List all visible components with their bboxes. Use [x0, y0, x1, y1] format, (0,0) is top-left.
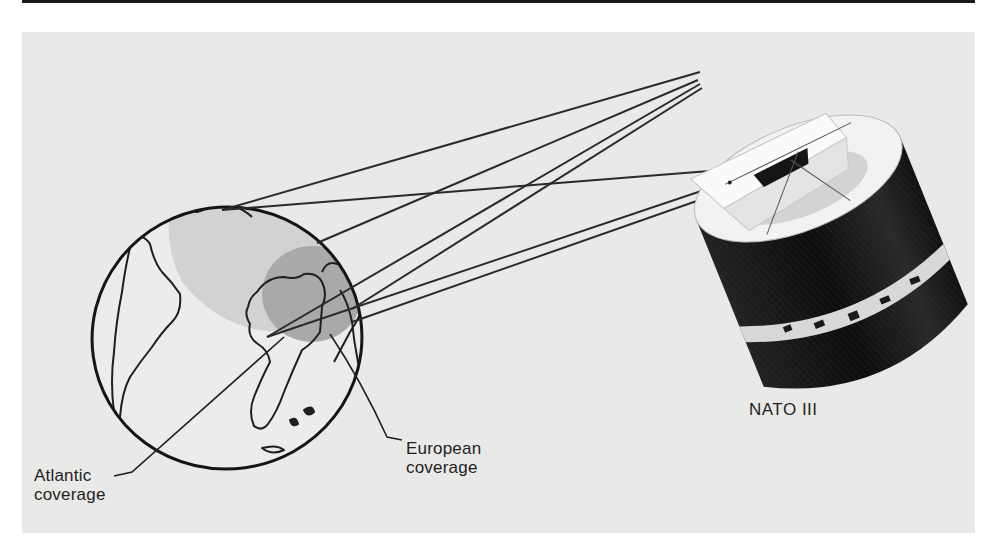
atlantic-label-line2: coverage — [34, 485, 106, 504]
european-label-line2: coverage — [406, 458, 481, 477]
satellite-label: NATO III — [749, 400, 818, 419]
top-rule — [22, 0, 975, 3]
atlantic-coverage-label: Atlantic coverage — [34, 466, 106, 504]
atlantic-label-line1: Atlantic — [34, 466, 106, 485]
european-label-line1: European — [406, 439, 481, 458]
european-coverage-area — [262, 246, 362, 342]
diagram-photo: Atlantic coverage European coverage NATO… — [22, 32, 975, 533]
satellite-coverage-illustration — [22, 32, 975, 533]
nato-iii-satellite — [677, 89, 975, 414]
european-coverage-label: European coverage — [406, 439, 481, 477]
